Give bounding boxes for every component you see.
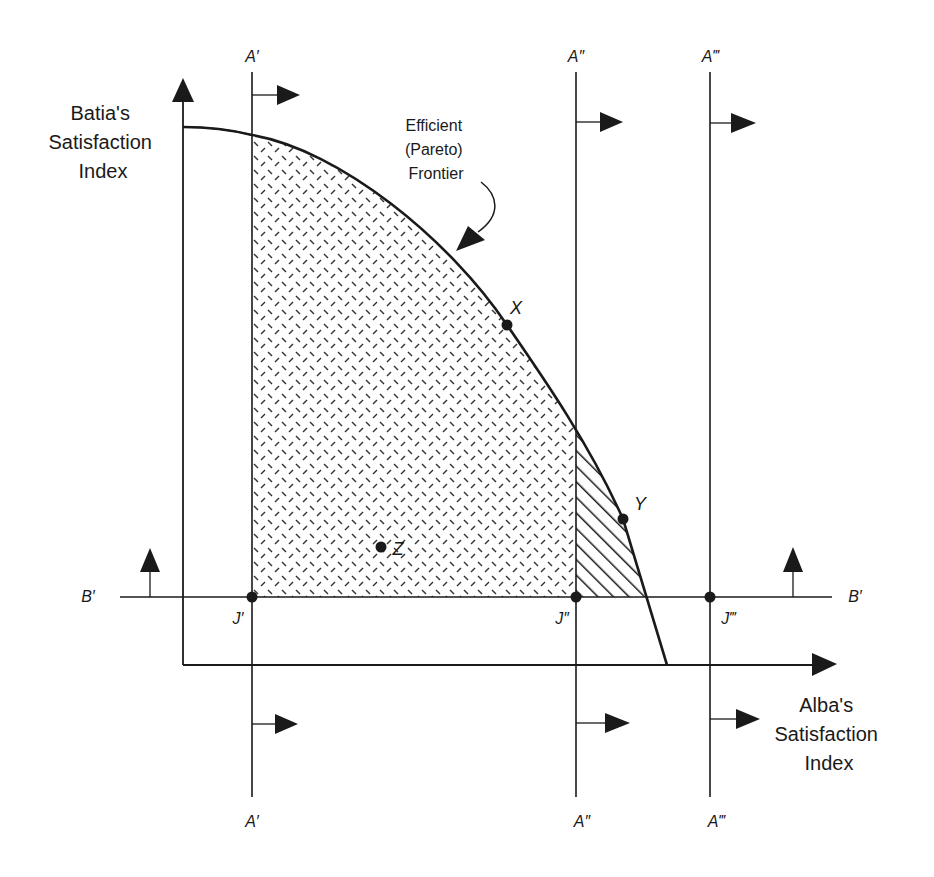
vertical-line-A3 — [710, 72, 760, 797]
arrow-right-icon — [812, 653, 837, 676]
label-A2-top: A″ — [567, 48, 586, 65]
label-A1-top: A′ — [244, 48, 260, 65]
x-axis — [183, 653, 837, 676]
point-X — [502, 320, 513, 331]
point-J3 — [705, 592, 716, 603]
x-axis-label: Alba's Satisfaction Index — [775, 694, 884, 774]
arrow-right-icon — [605, 713, 630, 733]
label-J3: J‴ — [720, 610, 737, 627]
y-axis-label: Batia's Satisfaction Index — [49, 102, 158, 182]
arrow-right-icon — [277, 85, 300, 105]
label-X: X — [509, 298, 523, 318]
arrow-right-icon — [731, 113, 756, 133]
arrow-right-icon — [736, 709, 760, 729]
point-J2 — [571, 592, 582, 603]
label-J2: J″ — [554, 610, 570, 627]
vertical-line-A2 — [576, 72, 630, 797]
label-A2-bottom: A″ — [573, 813, 592, 830]
label-A1-bottom: A′ — [244, 813, 260, 830]
arrow-right-icon — [275, 714, 298, 734]
label-Y: Y — [634, 494, 648, 514]
frontier-callout-arrow — [456, 182, 495, 251]
arrow-up-icon — [172, 78, 194, 102]
point-Y — [618, 514, 629, 525]
label-Z: Z — [392, 539, 405, 559]
label-A3-top: A‴ — [701, 48, 721, 65]
y-axis — [172, 78, 194, 665]
arrow-up-icon — [783, 547, 803, 572]
label-J1: J′ — [232, 610, 245, 627]
point-Z — [376, 542, 387, 553]
label-A3-bottom: A‴ — [707, 813, 727, 830]
arrow-up-icon — [140, 548, 160, 572]
point-J1 — [247, 592, 258, 603]
label-B-left: B′ — [81, 588, 96, 605]
frontier-label: Efficient (Pareto) Frontier — [405, 117, 467, 182]
pareto-frontier-diagram: Batia's Satisfaction Index Alba's Satisf… — [0, 0, 934, 877]
label-B-right: B′ — [848, 588, 863, 605]
arrow-right-icon — [600, 112, 623, 132]
